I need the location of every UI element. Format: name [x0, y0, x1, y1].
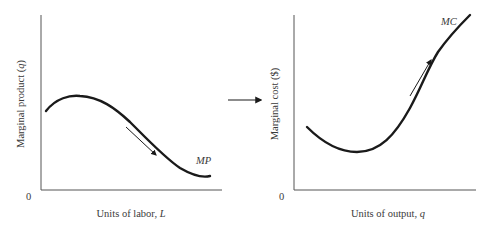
left-y-axis-label: Marginal product (q): [15, 60, 26, 148]
left-x-label-text: Units of labor,: [97, 208, 160, 219]
right-y-axis-label: Marginal cost ($): [269, 68, 280, 141]
mp-curve: [46, 96, 210, 177]
mc-curve: [307, 15, 470, 152]
diagram-canvas: [0, 0, 487, 236]
mp-curve-label: MP: [196, 155, 211, 166]
left-x-axis-label: Units of labor, L: [97, 208, 166, 219]
right-x-label-text: Units of output,: [351, 208, 420, 219]
mc-curve-label: MC: [441, 16, 457, 27]
right-axes: [294, 15, 476, 190]
left-x-label-var: L: [160, 208, 166, 219]
mc-direction-arrow: [410, 60, 431, 96]
left-y-label-suffix: ): [15, 60, 26, 64]
left-axes: [41, 15, 222, 190]
mp-direction-arrow: [126, 127, 156, 155]
right-x-label-var: q: [420, 208, 425, 219]
right-origin-label: 0: [279, 191, 284, 202]
left-y-label-var: q: [15, 64, 26, 69]
left-y-label-text: Marginal product (: [15, 69, 26, 148]
left-origin-label: 0: [26, 191, 31, 202]
right-x-axis-label: Units of output, q: [351, 208, 425, 219]
